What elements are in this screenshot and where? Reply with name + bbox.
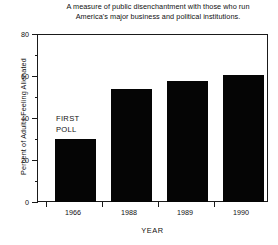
y-tick-label-0: 0 — [0, 199, 29, 206]
x-tick-2 — [102, 202, 103, 207]
annotation-first-poll: FIRST POLL — [56, 114, 110, 135]
bar-1989[interactable] — [167, 81, 208, 202]
chart-title-line-2: America's major business and political i… — [42, 12, 274, 22]
bar-1988[interactable] — [111, 89, 152, 202]
y-tick-major-0 — [32, 202, 38, 203]
x-tick-label-1988: 1988 — [103, 209, 155, 217]
chart-title: A measure of public disenchantment with … — [42, 2, 274, 22]
x-tick-label-1990: 1990 — [215, 209, 267, 217]
x-tick-4 — [214, 202, 215, 207]
annotation-line-2: POLL — [56, 125, 110, 136]
x-tick-label-1966: 1966 — [47, 209, 99, 217]
bar-1966[interactable] — [55, 139, 96, 202]
y-axis-title: Percent of Adults Feeling Alienated — [19, 42, 28, 192]
x-tick-3 — [158, 202, 159, 207]
bar-1990[interactable] — [223, 75, 264, 202]
bar-chart-figure: A measure of public disenchantment with … — [0, 0, 278, 245]
x-tick-1 — [46, 202, 47, 207]
annotation-line-1: FIRST — [56, 114, 110, 125]
x-tick-label-1989: 1989 — [159, 209, 211, 217]
chart-title-line-1: A measure of public disenchantment with … — [42, 2, 274, 12]
x-axis-title: YEAR — [37, 226, 268, 235]
y-tick-label-80: 80 — [0, 31, 29, 38]
